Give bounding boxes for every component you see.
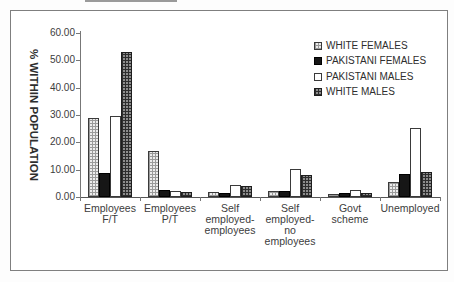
bar-pakistani-males [350,190,361,197]
legend-entry: PAKISTANI FEMALES [314,54,426,70]
bar-white-males [361,193,372,197]
y-axis-line [80,31,81,198]
category-label: Employees F/T [80,203,140,225]
bar-white-females [388,182,399,197]
legend-marker-icon [314,73,322,81]
y-tick-label: 0.00 [35,192,75,202]
scanned-page: % WITHIN POPULATION 60.0050.0040.0030.00… [0,0,454,282]
bar-white-males [181,192,192,197]
y-tick-label: 20.00 [35,137,75,147]
y-tick-label: 30.00 [35,110,75,120]
y-tick-mark [76,115,80,116]
x-tick-mark [140,197,141,201]
legend-label: WHITE FEMALES [326,41,408,51]
y-tick-mark [76,142,80,143]
category-label: Unemployed [380,203,440,214]
bar-pakistani-females [279,191,290,197]
x-tick-mark [440,197,441,201]
bar-pakistani-females [219,193,230,197]
bar-white-females [88,118,99,197]
bar-pakistani-males [110,116,121,197]
y-tick-mark [76,170,80,171]
legend-entry: PAKISTANI MALES [314,69,426,85]
legend-label: PAKISTANI MALES [326,72,413,82]
x-tick-mark [260,197,261,201]
x-tick-mark [200,197,201,201]
legend-label: WHITE MALES [326,87,395,97]
y-tick-label: 10.00 [35,165,75,175]
bar-pakistani-females [159,190,170,197]
x-tick-mark [80,197,81,201]
legend-entry: WHITE MALES [314,85,426,101]
y-tick-mark [76,88,80,89]
bar-chart: % WITHIN POPULATION 60.0050.0040.0030.00… [10,10,448,271]
bar-white-females [208,192,219,197]
legend-label: PAKISTANI FEMALES [326,56,426,66]
category-label: Self employed- employees [200,203,260,236]
x-tick-mark [320,197,321,201]
bar-white-males [421,172,432,197]
category-label: Employees P/T [140,203,200,225]
bar-pakistani-females [99,173,110,197]
bar-white-males [241,186,252,197]
bar-pakistani-females [339,193,350,197]
bar-pakistani-males [170,191,181,197]
bar-white-females [328,194,339,197]
bar-pakistani-males [290,169,301,197]
legend-marker-icon [314,88,322,96]
y-tick-label: 50.00 [35,55,75,65]
bar-pakistani-males [410,128,421,197]
page-artifact-line [85,0,177,2]
y-tick-mark [76,60,80,61]
y-tick-label: 60.00 [35,28,75,38]
x-tick-mark [380,197,381,201]
y-tick-mark [76,33,80,34]
legend-marker-icon [314,57,322,65]
category-label: Govt scheme [320,203,380,225]
bar-white-males [301,175,312,197]
legend-marker-icon [314,42,322,50]
bar-white-females [148,151,159,197]
bar-pakistani-females [399,174,410,197]
bar-white-males [121,52,132,197]
bar-pakistani-males [230,185,241,197]
category-label: Self employed- no employees [260,203,320,247]
legend-entry: WHITE FEMALES [314,38,426,54]
y-tick-label: 40.00 [35,83,75,93]
bar-white-females [268,191,279,197]
legend: WHITE FEMALESPAKISTANI FEMALESPAKISTANI … [314,38,426,100]
